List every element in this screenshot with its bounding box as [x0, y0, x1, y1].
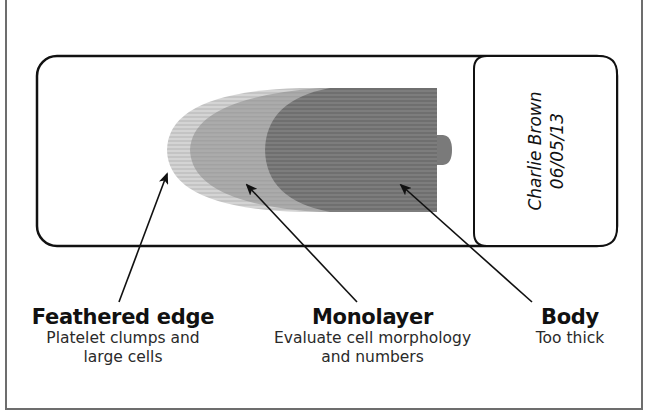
sample-date: 06/05/13: [546, 91, 568, 210]
drop-knob: [437, 135, 452, 165]
feathered-edge-desc-1: Platelet clumps and: [28, 329, 218, 348]
body-title: Body: [520, 305, 620, 329]
monolayer-desc-2: and numbers: [255, 348, 490, 367]
monolayer-label: Monolayer Evaluate cell morphology and n…: [255, 305, 490, 367]
slide-label: Charlie Brown 06/05/13: [474, 55, 617, 247]
body-desc-1: Too thick: [520, 329, 620, 348]
feathered-edge-title: Feathered edge: [28, 305, 218, 329]
monolayer-desc-1: Evaluate cell morphology: [255, 329, 490, 348]
monolayer-title: Monolayer: [255, 305, 490, 329]
slide-label-text: Charlie Brown 06/05/13: [524, 91, 568, 210]
feathered-edge-label: Feathered edge Platelet clumps and large…: [28, 305, 218, 367]
feathered-edge-desc-2: large cells: [28, 348, 218, 367]
body-label: Body Too thick: [520, 305, 620, 348]
patient-name: Charlie Brown: [524, 91, 546, 210]
